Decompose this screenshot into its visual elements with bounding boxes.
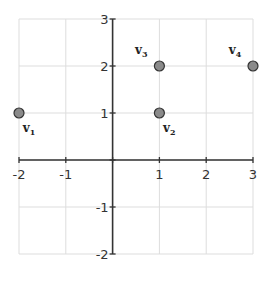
point-label-subscript: 4 [236,49,242,59]
scatter-plot: -2-1123321-1-2 v1v2v3v4 [0,0,268,281]
data-point [154,108,164,118]
y-tick-label: -2 [96,247,109,262]
data-points: v1v2v3v4 [14,43,258,137]
x-tick-label: 3 [249,167,257,182]
x-tick-label: 1 [155,167,163,182]
x-tick-label: -2 [13,167,26,182]
x-tick-label: 2 [202,167,210,182]
data-point [14,108,24,118]
point-label: v2 [162,121,176,137]
y-tick-label: 2 [100,59,108,74]
x-tick-label: -1 [59,167,72,182]
point-label-subscript: 2 [170,127,176,137]
y-tick-label: 3 [100,12,108,27]
point-label: v4 [228,43,242,59]
y-tick-label: 1 [100,106,108,121]
point-label: v3 [134,43,148,59]
point-label: v1 [22,121,36,137]
data-point [154,61,164,71]
data-point [248,61,258,71]
point-label-subscript: 3 [142,49,148,59]
point-label-subscript: 1 [30,127,36,137]
y-tick-label: -1 [96,200,109,215]
